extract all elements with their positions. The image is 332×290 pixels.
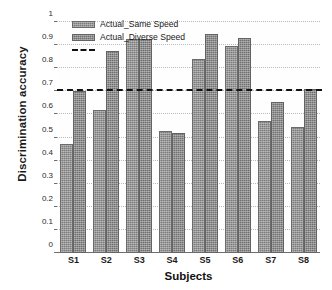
bar bbox=[159, 131, 172, 253]
y-tick-label: 0.2 bbox=[27, 193, 53, 202]
x-tick-label: S1 bbox=[57, 255, 90, 265]
bar bbox=[291, 127, 304, 253]
bar-group bbox=[254, 22, 287, 253]
bar bbox=[73, 91, 86, 253]
y-tick-label: 0.5 bbox=[27, 124, 53, 133]
y-axis-title: Discrimination accuracy bbox=[16, 14, 28, 214]
y-tick-label: 0 bbox=[27, 240, 53, 249]
x-tick-label: S7 bbox=[254, 255, 287, 265]
legend: Actual_Same SpeedActual_Diverse Speed bbox=[72, 18, 185, 56]
bar-group bbox=[221, 22, 254, 253]
bar-group bbox=[189, 22, 222, 253]
legend-item[interactable] bbox=[72, 44, 185, 56]
bar bbox=[139, 39, 152, 253]
x-tick-label: S5 bbox=[189, 255, 222, 265]
bar bbox=[238, 38, 251, 253]
bar bbox=[304, 89, 317, 253]
plot-area: 00.10.20.30.40.50.60.70.80.91 bbox=[57, 22, 320, 253]
bar bbox=[172, 133, 185, 253]
bar bbox=[225, 46, 238, 253]
bar bbox=[271, 102, 284, 253]
y-tick-label: 0.8 bbox=[27, 55, 53, 64]
legend-color-swatch bbox=[72, 34, 95, 41]
legend-item[interactable]: Actual_Same Speed bbox=[72, 18, 185, 30]
legend-color-swatch bbox=[72, 21, 95, 28]
threshold-line bbox=[57, 89, 322, 91]
bar bbox=[258, 121, 271, 253]
y-tick-label: 1 bbox=[27, 9, 53, 18]
bar-group bbox=[57, 22, 90, 253]
bar bbox=[192, 59, 205, 253]
bar-group bbox=[90, 22, 123, 253]
x-axis-labels: S1S2S3S4S5S6S7S8 bbox=[57, 255, 320, 265]
bar bbox=[126, 39, 139, 253]
legend-label: Actual_Diverse Speed bbox=[100, 32, 185, 42]
bar bbox=[60, 144, 73, 253]
y-tick-label: 0.6 bbox=[27, 101, 53, 110]
legend-item[interactable]: Actual_Diverse Speed bbox=[72, 31, 185, 43]
x-tick-label: S6 bbox=[221, 255, 254, 265]
bar-group bbox=[123, 22, 156, 253]
y-tick-label: 0.1 bbox=[27, 216, 53, 225]
bar-group bbox=[156, 22, 189, 253]
x-tick-label: S3 bbox=[123, 255, 156, 265]
x-tick-label: S8 bbox=[287, 255, 320, 265]
x-tick-label: S2 bbox=[90, 255, 123, 265]
y-tick-label: 0.3 bbox=[27, 170, 53, 179]
legend-label: Actual_Same Speed bbox=[100, 19, 178, 29]
bar bbox=[106, 51, 119, 253]
x-axis-title: Subjects bbox=[57, 270, 320, 282]
bar bbox=[205, 34, 218, 253]
bar bbox=[93, 110, 106, 253]
x-tick-label: S4 bbox=[156, 255, 189, 265]
y-tick-label: 0.4 bbox=[27, 147, 53, 156]
legend-dashed-swatch bbox=[72, 49, 95, 51]
y-tick-label: 0.7 bbox=[27, 78, 53, 87]
bar-groups bbox=[57, 22, 320, 253]
y-tick-label: 0.9 bbox=[27, 32, 53, 41]
bar-group bbox=[287, 22, 320, 253]
bar-chart: Discrimination accuracy 00.10.20.30.40.5… bbox=[0, 0, 332, 290]
